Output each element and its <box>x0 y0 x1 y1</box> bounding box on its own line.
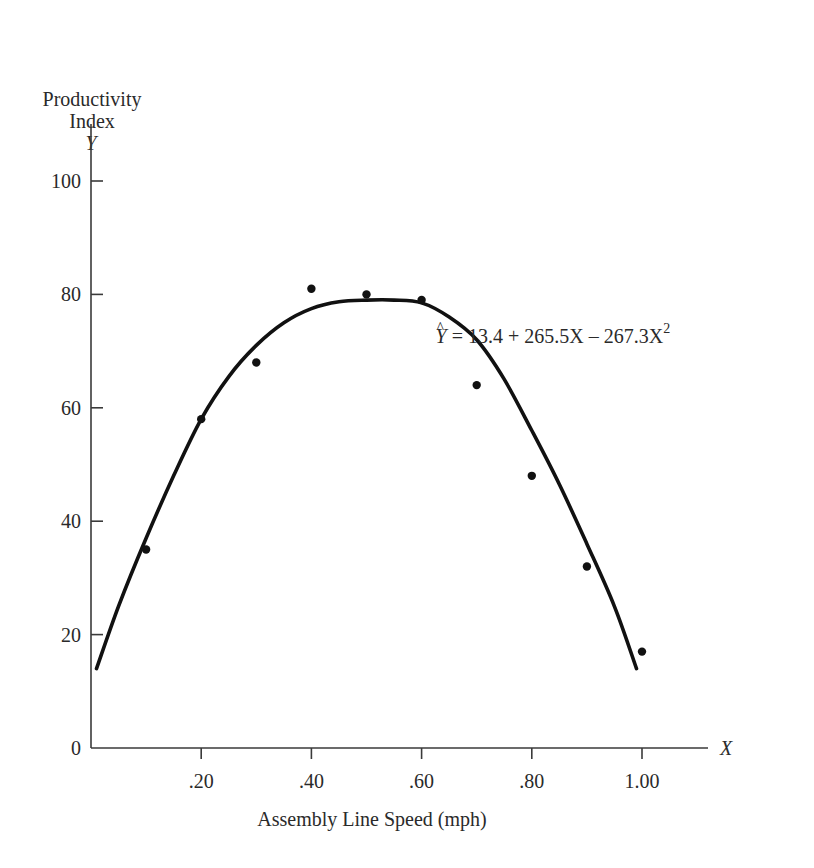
data-point <box>473 381 481 389</box>
data-point <box>197 415 205 423</box>
data-point <box>252 358 260 366</box>
x-tick-label: .80 <box>519 770 544 792</box>
chart: Productivity Index Y X 020406080100 .20.… <box>0 0 814 868</box>
data-point <box>362 290 370 298</box>
x-ticks: .20.40.60.801.00 <box>189 748 660 792</box>
x-tick-label: .60 <box>409 770 434 792</box>
fitted-curve <box>97 300 637 669</box>
x-tick-label: .40 <box>299 770 324 792</box>
data-point <box>638 647 646 655</box>
data-point <box>528 472 536 480</box>
y-tick-label: 60 <box>61 397 81 419</box>
equation-superscript: 2 <box>663 321 670 336</box>
data-point <box>142 545 150 553</box>
y-tick-label: 20 <box>61 624 81 646</box>
equation-body: = 13.4 + 265.5X – 267.3X <box>447 325 664 347</box>
x-tick-label: .20 <box>189 770 214 792</box>
equation-annotation: Y = 13.4 + 265.5X – 267.3X2 ^ <box>436 319 671 347</box>
y-axis-label-line-2: Index <box>69 110 115 132</box>
y-tick-label: 0 <box>71 737 81 759</box>
y-tick-label: 80 <box>61 283 81 305</box>
x-axis-symbol: X <box>719 737 733 759</box>
y-tick-label: 100 <box>51 170 81 192</box>
y-tick-label: 40 <box>61 510 81 532</box>
y-axis-label-line-1: Productivity <box>43 88 142 111</box>
x-axis-label: Assembly Line Speed (mph) <box>257 808 486 831</box>
x-tick-label: 1.00 <box>625 770 660 792</box>
svg-text:Y = 13.4 + 265.5X – 267.3X2: Y = 13.4 + 265.5X – 267.3X2 <box>436 321 671 347</box>
data-point <box>307 285 315 293</box>
equation-hat: ^ <box>437 319 445 336</box>
data-point <box>417 296 425 304</box>
y-ticks: 020406080100 <box>51 170 103 759</box>
y-axis-symbol: Y <box>85 132 98 154</box>
data-point <box>583 562 591 570</box>
